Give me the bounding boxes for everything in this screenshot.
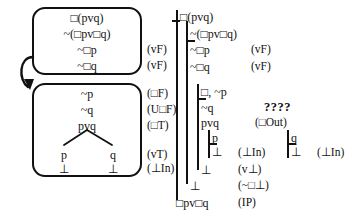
figure-root: □(pvq) ~(□pv□q) ~□p ~□q (vF) (vF) ~p ~q … [0, 0, 361, 219]
tableau-branch-lines [64, 130, 112, 145]
vector-overlay [0, 0, 361, 219]
transition-arrow-icon [21, 57, 34, 90]
